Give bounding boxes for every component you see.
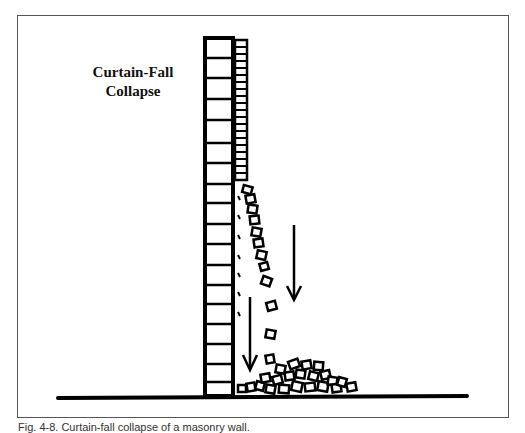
figure-caption: Fig. 4-8. Curtain-fall collapse of a mas… (18, 421, 250, 433)
debris-pile (238, 359, 357, 394)
ground-line (58, 396, 467, 398)
falling-arrow-left (243, 297, 257, 370)
falling-arrow-right (287, 225, 301, 300)
falling-bricks (242, 185, 277, 364)
masonry-wall (205, 38, 247, 396)
